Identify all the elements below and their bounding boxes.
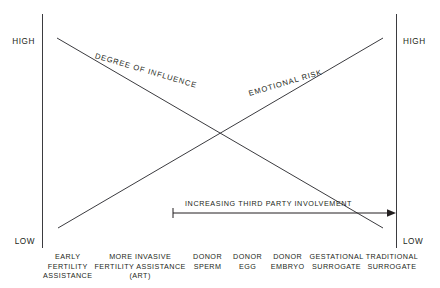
category-label-line: DONOR: [188, 252, 228, 262]
category-label: DONOREMBRYO: [267, 252, 309, 271]
category-label-line: (ART): [95, 271, 186, 281]
category-label-line: SURROGATE: [366, 262, 418, 272]
category-label: MORE INVASIVEFERTILITY ASSISTANCE(ART): [94, 252, 187, 281]
category-axis-labels: EARLYFERTILITYASSISTANCEMORE INVASIVEFER…: [42, 252, 396, 281]
category-label: DONOREGG: [228, 252, 267, 271]
category-label-line: EMBRYO: [268, 262, 308, 272]
category-label-line: GESTATIONAL: [309, 252, 363, 262]
category-label: GESTATIONALSURROGATE: [308, 252, 364, 271]
category-label-line: SPERM: [188, 262, 228, 272]
category-label-line: ASSISTANCE: [43, 271, 93, 281]
category-label: TRADITIONALSURROGATE: [365, 252, 419, 271]
increasing-third-party-involvement-label: INCREASING THIRD PARTY INVOLVEMENT: [185, 200, 352, 207]
category-label-line: EARLY: [43, 252, 93, 262]
category-label: EARLYFERTILITYASSISTANCE: [42, 252, 94, 281]
trend-lines-group: [0, 0, 440, 288]
category-label-line: TRADITIONAL: [366, 252, 418, 262]
category-label-line: SURROGATE: [309, 262, 363, 272]
category-label-line: EGG: [229, 262, 266, 272]
category-label-line: FERTILITY ASSISTANCE: [95, 262, 186, 272]
category-label-line: FERTILITY: [43, 262, 93, 272]
category-label-line: MORE INVASIVE: [95, 252, 186, 262]
category-label: DONORSPERM: [187, 252, 229, 271]
fertility-influence-risk-chart: HIGH LOW HIGH LOW DEGREE OF INFLUENCE EM…: [0, 0, 440, 288]
category-label-line: DONOR: [268, 252, 308, 262]
category-label-line: DONOR: [229, 252, 266, 262]
